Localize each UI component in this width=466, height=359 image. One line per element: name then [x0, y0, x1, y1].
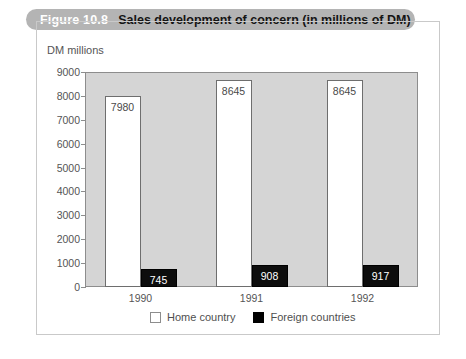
- y-axis-tick-mark: [81, 191, 86, 192]
- y-axis-tick-mark: [81, 72, 86, 73]
- legend-label: Home country: [167, 311, 235, 323]
- y-axis-tick-label: 9000: [40, 67, 80, 78]
- y-axis-tick-label: 5000: [40, 163, 80, 174]
- y-axis-tick-mark: [81, 120, 86, 121]
- y-axis-tick-label: 7000: [40, 115, 80, 126]
- white-square-icon: [150, 312, 161, 323]
- x-axis-tick-label: 1990: [111, 292, 171, 304]
- bar-home-country: [105, 96, 141, 287]
- chart-legend: Home countryForeign countries: [150, 311, 355, 323]
- legend-entry: Foreign countries: [253, 311, 355, 323]
- y-axis-tick-mark: [81, 215, 86, 216]
- legend-entry: Home country: [150, 311, 235, 323]
- bar-value-label: 917: [363, 271, 399, 282]
- bar-home-country: [216, 80, 252, 287]
- x-axis-tick-label: 1992: [333, 292, 393, 304]
- y-axis-tick-mark: [81, 239, 86, 240]
- legend-label: Foreign countries: [270, 311, 355, 323]
- y-axis-tick-label: 8000: [40, 91, 80, 102]
- y-axis-tick-mark: [81, 168, 86, 169]
- y-axis-tick-label: 4000: [40, 186, 80, 197]
- y-axis-tick-label: 3000: [40, 210, 80, 221]
- y-axis-tick-mark: [81, 263, 86, 264]
- bar-home-country: [327, 80, 363, 287]
- y-axis-tick-label: 0: [40, 282, 80, 293]
- bar-value-label: 7980: [105, 102, 141, 113]
- y-axis-tick-label: 6000: [40, 139, 80, 150]
- y-axis-tick-mark: [81, 287, 86, 288]
- bar-chart: DM millions 9000800070006000500040003000…: [0, 0, 466, 359]
- bar-value-label: 745: [141, 275, 177, 286]
- y-axis-tick-mark: [81, 144, 86, 145]
- x-axis-tick-label: 1991: [222, 292, 282, 304]
- bar-value-label: 8645: [327, 86, 363, 97]
- y-axis-title: DM millions: [47, 44, 104, 56]
- bar-value-label: 908: [252, 271, 288, 282]
- black-square-icon: [253, 312, 264, 323]
- y-axis-tick-label: 2000: [40, 234, 80, 245]
- y-axis-tick-label: 1000: [40, 258, 80, 269]
- bar-value-label: 8645: [216, 86, 252, 97]
- y-axis-tick-mark: [81, 96, 86, 97]
